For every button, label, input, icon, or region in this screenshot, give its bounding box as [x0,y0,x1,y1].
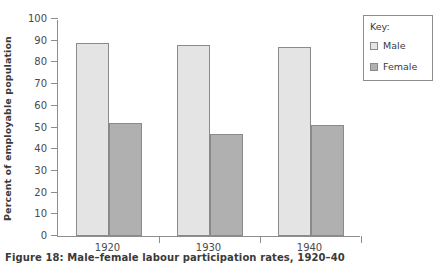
bar-male-1940 [278,47,311,236]
figure: Percent of employable population 0102030… [0,0,438,269]
legend-swatch-female-icon [370,63,378,71]
bar-female-1930 [210,134,243,236]
legend-entries: MaleFemale [370,40,426,73]
x-axis-tick [361,236,362,243]
y-axis-tick-label: 100 [28,12,47,25]
legend-label-female: Female [383,61,417,73]
figure-caption: Figure 18: Male–female labour participat… [5,252,345,263]
y-axis-tick-label: 40 [34,142,47,155]
bar-female-1940 [311,125,344,236]
y-axis-tick: 90 [51,40,58,41]
y-axis-tick-label: 70 [34,77,47,90]
y-axis-tick: 30 [51,170,58,171]
y-axis-tick-label: 10 [34,207,47,220]
plot-area: 0102030405060708090100 [57,20,360,237]
y-axis-tick-label: 20 [34,186,47,199]
legend-title: Key: [370,21,426,33]
y-axis-tick-label: 90 [34,34,47,47]
y-axis-tick-label: 0 [41,229,47,242]
bar-female-1920 [109,123,142,236]
y-axis-tick: 40 [51,148,58,149]
legend-item-female: Female [370,61,426,73]
bar-male-1930 [177,45,210,236]
y-axis-tick: 80 [51,61,58,62]
y-axis-tick: 100 [51,18,58,19]
y-axis-tick: 60 [51,105,58,106]
y-axis-tick-label: 50 [34,121,47,134]
y-axis-tick: 0 [51,235,58,236]
legend-swatch-male-icon [370,42,378,50]
y-axis-tick: 10 [51,213,58,214]
legend: Key: MaleFemale [363,15,433,81]
legend-label-male: Male [383,40,406,52]
bar-male-1920 [76,43,109,236]
y-axis-title: Percent of employable population [2,20,16,237]
y-axis-tick: 50 [51,127,58,128]
legend-item-male: Male [370,40,426,52]
y-axis-tick-label: 60 [34,99,47,112]
y-axis-tick-label: 80 [34,55,47,68]
y-axis-tick-label: 30 [34,164,47,177]
y-axis-tick: 70 [51,83,58,84]
y-axis-tick: 20 [51,192,58,193]
